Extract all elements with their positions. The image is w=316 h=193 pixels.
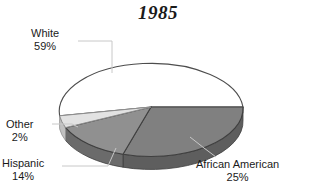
slice-label-white-pct: 59% <box>31 40 59 53</box>
slice-label-hispanic-pct: 14% <box>2 170 44 183</box>
slice-label-african-american: African American 25% <box>196 158 279 183</box>
slice-label-white-name: White <box>31 27 59 39</box>
slice-label-white: White 59% <box>31 27 59 52</box>
slice-label-african-american-pct: 25% <box>196 171 279 184</box>
slice-label-hispanic: Hispanic 14% <box>2 157 44 182</box>
pie-top-face <box>59 63 243 156</box>
leader-line-white <box>78 41 112 73</box>
slice-label-hispanic-name: Hispanic <box>2 157 44 169</box>
slice-label-african-american-name: African American <box>196 158 279 170</box>
slice-label-other: Other 2% <box>6 118 34 143</box>
slice-label-other-pct: 2% <box>6 131 34 144</box>
pie-chart-figure: 1985 <box>0 0 316 193</box>
slice-label-other-name: Other <box>6 118 34 130</box>
